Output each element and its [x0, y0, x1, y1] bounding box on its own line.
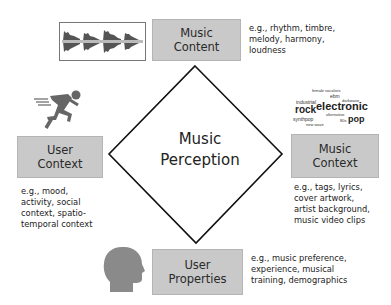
- user-properties-description: e.g., music preference, experience, musi…: [251, 253, 347, 286]
- music-context-box: MusicContext: [291, 134, 379, 178]
- running-person-icon: [32, 88, 88, 134]
- desc-line: experience, musical: [251, 264, 347, 275]
- music-context-line2: Context: [312, 156, 357, 170]
- desc-line: e.g., rhythm, timbre,: [249, 23, 335, 34]
- music-content-line2: Content: [174, 40, 220, 54]
- center-label-line2: Perception: [150, 150, 250, 171]
- user-properties-line1: User: [168, 258, 226, 272]
- music-content-box: MusicContent: [152, 19, 241, 61]
- user-context-line2: Context: [37, 157, 82, 171]
- user-properties-line2: Properties: [168, 272, 226, 286]
- desc-line: artist background,: [294, 204, 370, 215]
- desc-line: e.g., music preference,: [251, 253, 347, 264]
- desc-line: loudness: [249, 45, 335, 56]
- music-content-description: e.g., rhythm, timbre, melody, harmony, l…: [249, 23, 335, 56]
- desc-line: training, demographics: [251, 275, 347, 286]
- desc-line: context, spatio-: [21, 208, 93, 219]
- user-context-description: e.g., mood, activity, social context, sp…: [21, 186, 93, 230]
- tag-word: 80s: [340, 118, 346, 123]
- tag-word: rock: [295, 104, 316, 115]
- tag-word: ebm: [330, 93, 340, 99]
- music-context-description: e.g., tags, lyrics, cover artwork, artis…: [294, 182, 370, 226]
- user-context-line1: User: [37, 143, 82, 157]
- desc-line: activity, social: [21, 197, 93, 208]
- audio-waveform-icon: [59, 22, 146, 61]
- human-head-icon: [102, 245, 148, 293]
- tag-word: new wave: [306, 122, 324, 127]
- desc-line: cover artwork,: [294, 193, 370, 204]
- desc-line: music video clips: [294, 215, 370, 226]
- tag-word: alternative: [326, 112, 344, 117]
- user-properties-box: UserProperties: [152, 249, 243, 295]
- desc-line: temporal context: [21, 219, 93, 230]
- tag-word: pop: [348, 114, 365, 124]
- music-content-line1: Music: [174, 26, 220, 40]
- center-label-line1: Music: [150, 129, 250, 150]
- music-context-line1: Music: [312, 142, 357, 156]
- tag-word: electronic: [316, 100, 368, 112]
- desc-line: e.g., tags, lyrics,: [294, 182, 370, 193]
- tag-cloud-icon: female vocalists ebm industrial darkwave…: [290, 88, 385, 133]
- desc-line: e.g., mood,: [21, 186, 93, 197]
- music-perception-label: Music Perception: [150, 129, 250, 171]
- desc-line: melody, harmony,: [249, 34, 335, 45]
- user-context-box: UserContext: [17, 136, 103, 178]
